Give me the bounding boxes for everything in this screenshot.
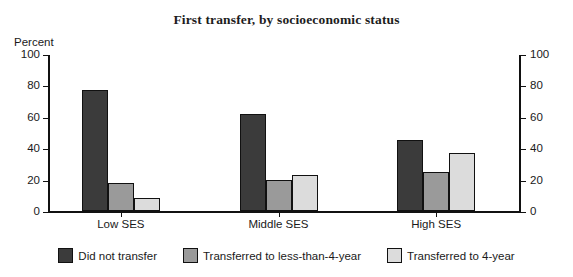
bar [108, 183, 134, 211]
chart-title: First transfer, by socioeconomic status [0, 12, 573, 28]
y-axis-tick-left [43, 55, 48, 56]
legend-label: Did not transfer [78, 250, 157, 262]
legend-swatch [58, 248, 73, 263]
bar [240, 114, 266, 211]
y-axis-tick-right [521, 212, 526, 213]
x-axis-line [48, 211, 521, 213]
y-axis-tick-label-left: 40 [27, 143, 40, 155]
x-axis-tick [436, 212, 437, 217]
bar [449, 153, 475, 211]
legend-item: Did not transfer [58, 248, 157, 263]
legend-label: Transferred to less-than-4-year [203, 250, 361, 262]
y-axis-tick-label-right: 20 [530, 175, 543, 187]
x-axis-category-label: High SES [411, 218, 461, 230]
bar [266, 180, 292, 211]
legend-label: Transferred to 4-year [407, 250, 515, 262]
y-axis-tick-label-left: 80 [27, 81, 40, 93]
bar [82, 90, 108, 211]
y-axis-tick-left [43, 86, 48, 87]
chart-container: First transfer, by socioeconomic status … [0, 0, 573, 277]
y-axis-tick-label-left: 100 [21, 49, 40, 61]
y-axis-tick-right [521, 149, 526, 150]
y-axis-tick-left [43, 149, 48, 150]
y-axis-tick-label-left: 60 [27, 112, 40, 124]
y-axis-tick-right [521, 181, 526, 182]
y-axis-tick-left [43, 181, 48, 182]
plot-area: 002020404060608080100100 Low SESMiddle S… [48, 55, 521, 211]
y-axis-tick-label-right: 80 [530, 81, 543, 93]
x-axis-category-label: Middle SES [248, 218, 308, 230]
x-axis-tick [279, 212, 280, 217]
bar [134, 198, 160, 211]
y-axis-left-line [48, 55, 50, 212]
y-axis-tick-label-left: 0 [34, 206, 40, 218]
y-axis-tick-label-right: 0 [530, 206, 536, 218]
y-axis-unit-label: Percent [14, 36, 54, 48]
y-axis-tick-left [43, 212, 48, 213]
legend-swatch [183, 248, 198, 263]
y-axis-tick-right [521, 86, 526, 87]
y-axis-tick-right [521, 118, 526, 119]
y-axis-right-line [519, 55, 521, 212]
bar [292, 175, 318, 211]
x-axis-category-label: Low SES [97, 218, 144, 230]
bar [423, 172, 449, 211]
x-axis-tick [121, 212, 122, 217]
legend-swatch [387, 248, 402, 263]
y-axis-tick-label-right: 100 [530, 49, 549, 61]
y-axis-tick-label-left: 20 [27, 175, 40, 187]
legend-item: Transferred to less-than-4-year [183, 248, 361, 263]
y-axis-tick-label-right: 60 [530, 112, 543, 124]
bar [397, 140, 423, 211]
legend-item: Transferred to 4-year [387, 248, 515, 263]
y-axis-tick-right [521, 55, 526, 56]
y-axis-tick-left [43, 118, 48, 119]
chart-legend: Did not transferTransferred to less-than… [0, 248, 573, 263]
y-axis-tick-label-right: 40 [530, 143, 543, 155]
